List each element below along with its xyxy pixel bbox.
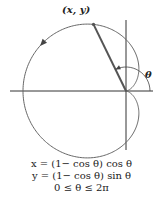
parameter-range: 0 ≤ θ ≤ 2π — [0, 182, 163, 194]
equation-y: y = (1− cos θ) sin θ — [0, 170, 163, 182]
equation-x: x = (1− cos θ) cos θ — [0, 158, 163, 170]
angle-label: θ — [145, 69, 152, 80]
point-marker — [92, 23, 95, 26]
radius-line — [94, 24, 126, 91]
point-label: (x, y) — [62, 4, 90, 16]
